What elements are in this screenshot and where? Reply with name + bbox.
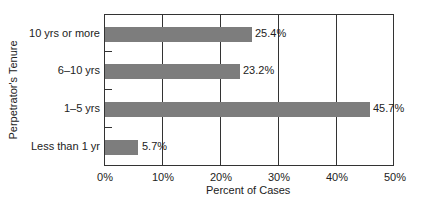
y-tick — [105, 127, 112, 128]
x-tick-label: 20% — [210, 171, 232, 183]
x-tick-label: 50% — [384, 171, 406, 183]
value-label: 5.7% — [142, 140, 167, 152]
bar-less-than-1-yr — [105, 140, 138, 155]
category-label: 1–5 yrs — [64, 102, 100, 114]
x-tick-label: 30% — [268, 171, 290, 183]
category-label: Less than 1 yr — [31, 140, 100, 152]
y-tick — [105, 89, 112, 90]
x-tick-label: 40% — [326, 171, 348, 183]
value-label: 23.2% — [243, 64, 274, 76]
x-tick-label: 0% — [97, 171, 113, 183]
value-label: 25.4% — [255, 27, 286, 39]
y-tick — [105, 51, 112, 52]
bar-6-10-yrs — [105, 64, 240, 79]
bar-1-5-yrs — [105, 102, 370, 117]
gridline — [336, 15, 337, 165]
x-axis-title: Percent of Cases — [206, 184, 290, 196]
bar-10-yrs-or-more — [105, 27, 252, 42]
category-label: 10 yrs or more — [29, 27, 100, 39]
x-tick-label: 10% — [152, 171, 174, 183]
value-label: 45.7% — [373, 102, 404, 114]
category-label: 6–10 yrs — [58, 64, 100, 76]
y-axis-title: Perpetrator's Tenure — [7, 40, 19, 139]
